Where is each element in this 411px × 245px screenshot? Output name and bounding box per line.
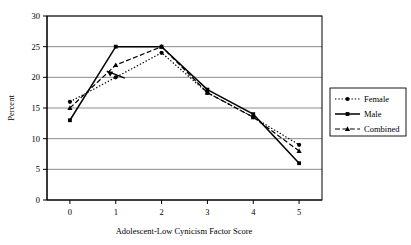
x-axis-title: Adolescent-Low Cynicism Factor Score bbox=[116, 226, 253, 236]
legend-label: Male bbox=[364, 109, 382, 119]
data-point bbox=[159, 51, 163, 55]
line-chart: 051015202530 012345 Percent Adolescent-L… bbox=[0, 0, 411, 245]
chart-legend: FemaleMaleCombined bbox=[330, 88, 406, 136]
legend-marker-icon bbox=[346, 112, 350, 116]
y-tick-label: 0 bbox=[36, 195, 40, 205]
y-axis: 051015202530 bbox=[32, 11, 48, 205]
y-axis-title: Percent bbox=[6, 95, 16, 121]
data-point bbox=[68, 118, 72, 122]
chart-container: 051015202530 012345 Percent Adolescent-L… bbox=[0, 0, 411, 245]
legend-marker-icon bbox=[345, 97, 349, 101]
data-point bbox=[297, 143, 301, 147]
legend-label: Combined bbox=[364, 124, 400, 134]
x-tick-label: 1 bbox=[114, 207, 118, 217]
x-tick-label: 3 bbox=[205, 207, 209, 217]
y-tick-label: 25 bbox=[32, 42, 41, 52]
x-tick-label: 0 bbox=[68, 207, 72, 217]
y-tick-label: 30 bbox=[32, 11, 41, 21]
y-tick-label: 10 bbox=[32, 134, 41, 144]
data-point bbox=[297, 161, 301, 165]
y-tick-label: 15 bbox=[32, 103, 41, 113]
data-point bbox=[114, 45, 118, 49]
x-axis: 012345 bbox=[47, 200, 322, 217]
x-tick-label: 5 bbox=[297, 207, 301, 217]
data-point bbox=[114, 75, 118, 79]
legend-label: Female bbox=[364, 94, 389, 104]
y-tick-label: 5 bbox=[36, 164, 40, 174]
data-point bbox=[68, 100, 72, 104]
x-tick-label: 2 bbox=[159, 207, 163, 217]
x-tick-label: 4 bbox=[251, 207, 256, 217]
y-tick-label: 20 bbox=[32, 72, 41, 82]
